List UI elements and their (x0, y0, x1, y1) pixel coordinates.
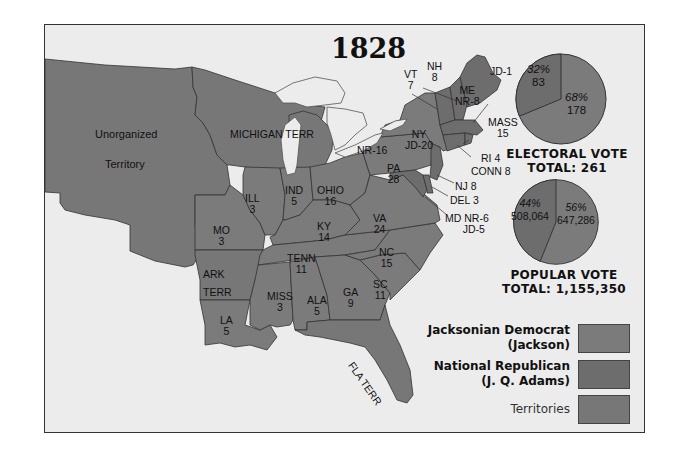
label-me: MENR-8 (455, 85, 480, 107)
label-ala: ALA5 (307, 295, 327, 317)
popular-vote-title: POPULAR VOTETOTAL: 1,155,350 (489, 268, 639, 296)
electoral-adams-label: 32%83 (527, 63, 550, 89)
label-unorganized: Unorganized (95, 129, 157, 140)
label-territory: Territory (105, 159, 145, 170)
label-mo: MO3 (213, 225, 230, 247)
electoral-vote-pie (511, 49, 611, 149)
label-terr: TERR (203, 287, 232, 298)
legend-territories: Territories (510, 395, 630, 424)
label-sc: SC11 (373, 279, 388, 301)
label-ny: NYJD-20 (405, 129, 433, 151)
label-michigan-terr: MICHIGAN TERR (230, 129, 314, 140)
electoral-vote-title: ELECTORAL VOTETOTAL: 261 (497, 147, 637, 175)
lake-superior (275, 77, 345, 107)
label-ind: IND5 (285, 185, 303, 207)
legend-jackson: Jacksonian Democrat(Jackson) (428, 323, 630, 353)
label-ny-nr: NR-16 (357, 145, 387, 156)
label-ohio: OHIO16 (317, 185, 344, 207)
label-nc: NC15 (379, 247, 394, 269)
legend-swatch-jackson (578, 324, 630, 353)
legend-adams: National Republican(J. Q. Adams) (434, 359, 630, 389)
label-va: VA24 (373, 213, 386, 235)
map-frame: 1828 Unorganized Territory MICHIGAN TERR… (44, 24, 645, 433)
label-ill: ILL3 (245, 193, 260, 215)
label-vt: VT7 (404, 69, 417, 91)
label-miss: MISS3 (267, 291, 293, 313)
election-year-title: 1828 (331, 33, 406, 64)
label-tenn: TENN11 (287, 253, 316, 275)
popular-adams-label: 44%508,064 (511, 197, 549, 223)
label-ky: KY14 (317, 221, 331, 243)
legend-swatch-territories (578, 395, 630, 424)
legend-swatch-adams (578, 360, 630, 389)
label-me-jd: JD-1 (490, 66, 512, 77)
state-conn (443, 133, 465, 151)
label-pa: PA28 (387, 163, 400, 185)
label-md: MD NR-6JD-5 (445, 213, 489, 235)
label-nj: NJ 8 (455, 181, 477, 192)
electoral-jackson-label: 68%178 (565, 91, 588, 117)
label-ark: ARK (203, 269, 225, 280)
label-ga: GA9 (343, 287, 358, 309)
state-ri (465, 133, 473, 145)
label-nh: NH8 (427, 61, 442, 83)
label-la: LA5 (220, 315, 233, 337)
popular-jackson-label: 56%647,286 (557, 201, 595, 227)
label-del: DEL 3 (450, 195, 479, 206)
